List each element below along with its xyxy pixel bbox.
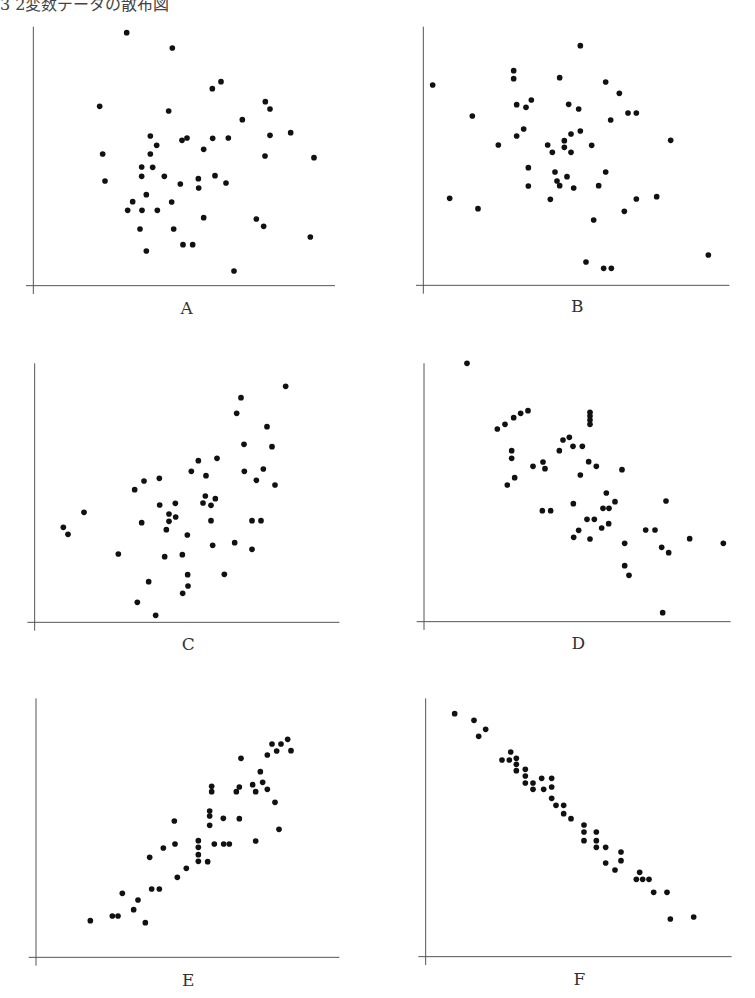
data-point [184, 866, 190, 872]
data-point [162, 174, 168, 180]
panel-label: B [557, 296, 597, 316]
data-point [285, 737, 291, 743]
data-point [603, 169, 609, 175]
data-point [254, 478, 260, 484]
data-point [540, 508, 546, 514]
data-point [234, 789, 240, 795]
data-point [589, 143, 595, 149]
data-point [464, 361, 470, 367]
data-point [102, 178, 108, 184]
data-point [175, 875, 181, 881]
data-point [599, 525, 605, 531]
data-point [169, 199, 175, 205]
data-point [666, 550, 672, 556]
scatter-plot [20, 350, 340, 660]
data-point [594, 464, 600, 470]
data-point [511, 68, 517, 74]
data-point [571, 185, 577, 191]
data-point [196, 185, 202, 191]
data-point [153, 613, 159, 619]
data-point [561, 803, 567, 809]
data-point [237, 784, 243, 790]
data-point [483, 727, 489, 733]
data-point [651, 890, 657, 896]
data-point [250, 782, 256, 788]
data-point [272, 482, 278, 488]
data-point [242, 469, 248, 475]
data-point [210, 136, 216, 142]
data-point [541, 787, 547, 793]
scatter-panel-f: F [410, 690, 755, 998]
data-point [594, 845, 600, 851]
panel-label: D [558, 633, 598, 653]
data-point [283, 384, 289, 390]
data-point [592, 517, 598, 523]
data-point [97, 104, 103, 110]
scatter-panel-c: C [20, 350, 340, 660]
data-point [208, 518, 214, 524]
data-point [475, 206, 481, 212]
data-point [596, 183, 602, 189]
data-point [571, 535, 577, 541]
data-point [263, 99, 269, 105]
data-point [514, 102, 520, 108]
data-point [562, 138, 568, 144]
data-point [470, 113, 476, 119]
data-point [196, 845, 202, 851]
data-point [622, 209, 628, 215]
data-point [507, 757, 513, 763]
data-point [207, 808, 213, 814]
data-point [660, 610, 666, 616]
data-point [180, 591, 186, 597]
data-point [619, 467, 625, 473]
data-point [210, 543, 216, 549]
data-point [269, 444, 275, 450]
data-point [514, 756, 520, 762]
data-point [157, 502, 163, 508]
data-point [523, 105, 529, 111]
data-point [212, 173, 218, 179]
data-point [568, 816, 574, 822]
data-point [594, 829, 600, 835]
data-point [100, 151, 106, 157]
data-point [81, 510, 87, 516]
data-point [209, 784, 215, 790]
scatter-panel-d: D [410, 350, 755, 660]
data-point [618, 849, 624, 855]
data-point [61, 525, 67, 531]
data-point [518, 411, 524, 417]
data-point [179, 138, 185, 144]
data-point [583, 259, 589, 265]
data-point [668, 916, 674, 922]
data-point [184, 135, 190, 141]
data-point [652, 527, 658, 533]
data-point [162, 554, 168, 560]
data-point [135, 897, 141, 903]
data-point [231, 268, 237, 274]
data-point [131, 907, 137, 913]
data-point [687, 536, 693, 542]
data-point [540, 459, 546, 465]
data-point [226, 135, 232, 141]
data-point [606, 521, 612, 527]
data-point [608, 117, 614, 123]
data-point [523, 767, 529, 773]
data-point [550, 150, 556, 156]
data-point [143, 920, 149, 926]
data-point [495, 426, 501, 432]
scatter-panel-b: B [410, 20, 750, 320]
data-point [267, 106, 273, 112]
data-point [240, 117, 246, 123]
data-point [214, 456, 220, 462]
data-point [155, 208, 161, 214]
data-point [178, 181, 184, 187]
data-point [150, 165, 156, 171]
data-point [237, 816, 243, 822]
data-point [172, 818, 178, 824]
data-point [223, 180, 229, 186]
data-point [288, 748, 294, 754]
data-point [203, 473, 209, 479]
data-point [557, 75, 563, 81]
scatter-plot [20, 690, 340, 998]
data-point [146, 579, 152, 585]
